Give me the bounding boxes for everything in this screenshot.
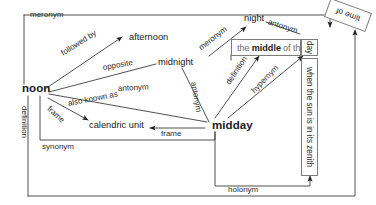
node-midday[interactable]: midday bbox=[212, 120, 253, 132]
edge-label-frame-right: frame bbox=[161, 130, 181, 138]
node-afternoon[interactable]: afternoon bbox=[129, 33, 168, 42]
edge-label-meronym-outer: meronym bbox=[30, 11, 63, 19]
node-noon[interactable]: noon bbox=[22, 83, 51, 95]
time-of-label: time of bbox=[334, 6, 361, 24]
diagram-canvas: noon midday afternoon midnight night cal… bbox=[0, 0, 376, 205]
node-calendric-unit[interactable]: calendric unit bbox=[89, 121, 144, 130]
edge-line-synonym bbox=[40, 96, 215, 140]
node-midnight[interactable]: midnight bbox=[158, 58, 193, 67]
definition-prefix: the bbox=[237, 43, 250, 53]
node-night[interactable]: night bbox=[244, 14, 264, 23]
zenith-definition-label: when the sun is in its zenith bbox=[305, 67, 314, 167]
zenith-definition-box[interactable]: when the sun is in its zenith bbox=[301, 58, 318, 176]
edge-label-holonym: holonym bbox=[228, 186, 258, 194]
edge-label-synonym: synonym bbox=[42, 143, 74, 151]
node-day-label: day bbox=[305, 41, 314, 54]
edge-label-definition-left: definition bbox=[20, 106, 28, 138]
definition-bold-word: middle bbox=[250, 43, 283, 53]
edge-label-antonym-noon: antonym bbox=[118, 83, 149, 93]
diagram-edges-layer bbox=[0, 0, 376, 205]
node-day[interactable]: day bbox=[301, 39, 318, 56]
definition-gloss-box[interactable]: the middle of the bbox=[231, 39, 301, 56]
edge-line-holonym bbox=[215, 132, 310, 186]
